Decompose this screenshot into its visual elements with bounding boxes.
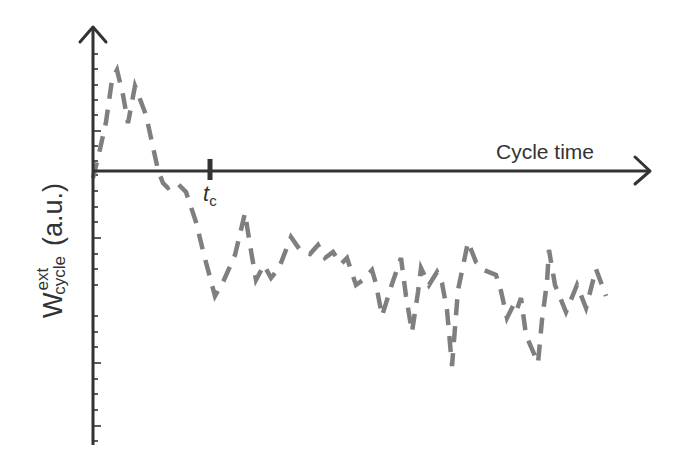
- svg-text:Wextcycle(a.u.): Wextcycle(a.u.): [33, 183, 69, 318]
- tc-label: tc: [203, 181, 217, 209]
- x-axis-label: Cycle time: [496, 140, 594, 163]
- series-line: [93, 70, 606, 366]
- chart-canvas: tc Cycle time Wextcycle(a.u.): [0, 0, 680, 466]
- y-axis-label: Wextcycle(a.u.): [33, 183, 69, 318]
